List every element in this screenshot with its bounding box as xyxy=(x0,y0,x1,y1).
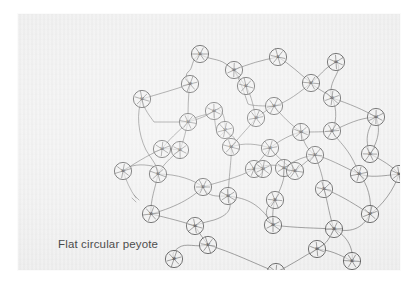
bead: 38 xyxy=(165,250,182,267)
bead-number: 07 xyxy=(309,81,313,85)
bead-number: 29 xyxy=(271,223,275,227)
bead-layer: 1009110806070512160413170302141801152030… xyxy=(114,45,400,270)
bead-number: 20 xyxy=(368,152,372,156)
bead-number: 42 xyxy=(244,84,248,88)
bead-number: 18 xyxy=(229,145,233,149)
bead: 32 xyxy=(194,178,211,195)
bead: 25 xyxy=(315,180,332,197)
bead-number: 17 xyxy=(223,128,227,132)
bead-number: 26 xyxy=(273,198,277,202)
bead: 12 xyxy=(133,90,150,107)
bead: 01 xyxy=(261,139,278,156)
bead-number: 44 xyxy=(212,109,216,113)
bead: 22 xyxy=(306,146,323,163)
bead-number: 24 xyxy=(357,172,361,176)
bead: 23 xyxy=(254,160,271,177)
peyote-stitch-diagram: 1009110806070512160413170302141801152030… xyxy=(18,14,400,270)
bead-number: 38 xyxy=(172,257,176,261)
bead-number: 12 xyxy=(140,97,144,101)
bead-number: 02 xyxy=(330,129,334,133)
bead: 14 xyxy=(153,140,170,157)
bead: 40 xyxy=(343,252,360,269)
bead: 34 xyxy=(390,165,400,182)
bead: 39 xyxy=(308,240,325,257)
bead: 26 xyxy=(266,191,283,208)
bead: 06 xyxy=(327,53,344,70)
bead-number: 03 xyxy=(299,130,303,134)
bead-number: 40 xyxy=(350,259,354,263)
bead-number: 04 xyxy=(374,115,378,119)
bead: 16 xyxy=(265,97,282,114)
bead: 03 xyxy=(292,123,309,140)
bead: 28 xyxy=(325,220,342,237)
bead: 17 xyxy=(216,121,233,138)
bead: 37 xyxy=(199,236,216,253)
bead-number: 35 xyxy=(149,212,153,216)
bead: 42 xyxy=(237,77,254,94)
bead: 33 xyxy=(219,187,236,204)
bead-number: 45 xyxy=(293,169,297,173)
bead-number: 23 xyxy=(261,167,265,171)
bead: 02 xyxy=(323,122,340,139)
bead: 07 xyxy=(302,74,319,91)
bead: 09 xyxy=(225,61,242,78)
bead: 41 xyxy=(267,263,284,270)
bead-number: 39 xyxy=(315,247,319,251)
bead-number: 14 xyxy=(160,147,164,151)
bead-number: 13 xyxy=(186,120,190,124)
bead: 44 xyxy=(205,102,222,119)
bead: 36 xyxy=(186,217,203,234)
bead: 43 xyxy=(247,109,264,126)
bead-number: 09 xyxy=(232,68,236,72)
bead-number: 16 xyxy=(272,104,276,108)
bead-number: 22 xyxy=(313,153,317,157)
bead: 13 xyxy=(179,113,196,130)
bead: 27 xyxy=(361,205,378,222)
bead-number: 37 xyxy=(206,243,210,247)
bead-number: 05 xyxy=(330,96,334,100)
bead-number: 06 xyxy=(334,60,338,64)
bead: 35 xyxy=(142,205,159,222)
bead-number: 31 xyxy=(156,172,160,176)
screenshot-page: 1009110806070512160413170302141801152030… xyxy=(0,0,414,284)
bead-number: 27 xyxy=(368,212,372,216)
bead-number: 36 xyxy=(193,224,197,228)
bead-number: 28 xyxy=(332,227,336,231)
bead: 45 xyxy=(286,162,303,179)
bead: 05 xyxy=(323,89,340,106)
bead-number: 10 xyxy=(198,52,202,56)
bead: 29 xyxy=(264,216,281,233)
bead-number: 33 xyxy=(226,194,230,198)
bead: 15 xyxy=(171,141,188,158)
bead: 04 xyxy=(367,108,384,125)
bead-number: 21 xyxy=(282,166,286,170)
bead: 30 xyxy=(114,162,131,179)
bead-number: 01 xyxy=(268,146,272,150)
bead: 31 xyxy=(149,165,166,182)
bead-number: 11 xyxy=(276,55,280,59)
bead-number: 34 xyxy=(397,172,400,176)
bead-number: 08 xyxy=(188,82,192,86)
bead: 18 xyxy=(222,138,239,155)
bead: 24 xyxy=(350,165,367,182)
diagram-caption: Flat circular peyote xyxy=(58,238,158,250)
bead: 20 xyxy=(361,145,378,162)
bead-number: 43 xyxy=(254,116,258,120)
bead: 10 xyxy=(191,45,208,62)
bead-number: 25 xyxy=(322,187,326,191)
scanned-sheet: 1009110806070512160413170302141801152030… xyxy=(18,14,400,270)
bead: 08 xyxy=(181,75,198,92)
bead: 11 xyxy=(269,48,286,65)
bead-number: 32 xyxy=(201,185,205,189)
bead-number: 15 xyxy=(178,148,182,152)
bead-number: 30 xyxy=(121,169,125,173)
